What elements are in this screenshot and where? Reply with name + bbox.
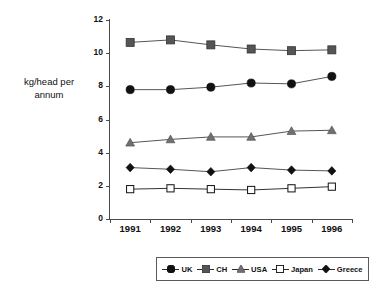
data-point-marker — [127, 186, 134, 193]
series-greece — [126, 163, 336, 176]
legend-swatch-usa — [232, 265, 249, 273]
y-tick-label: 2 — [86, 180, 103, 190]
series-ch — [126, 36, 336, 55]
plot-area: 024681012 — [110, 20, 352, 219]
y-tick-label: 12 — [86, 14, 103, 24]
data-point-marker — [167, 265, 175, 273]
data-point-marker — [207, 83, 215, 91]
data-point-marker — [126, 163, 134, 172]
series-line — [130, 76, 332, 89]
legend-marker-icon — [237, 265, 245, 273]
data-point-marker — [328, 183, 335, 190]
series-line — [130, 40, 332, 51]
x-axis-tick — [352, 219, 353, 223]
legend-label: USA — [251, 265, 267, 274]
series-uk — [126, 72, 336, 93]
legend-swatch-greece — [318, 265, 335, 273]
x-tick-label-1994: 1994 — [231, 223, 271, 234]
y-tick-label: 10 — [86, 47, 103, 57]
series-line — [130, 187, 332, 190]
series-usa — [126, 126, 336, 146]
x-tick-label-1996: 1996 — [312, 223, 352, 234]
x-tick-label-1995: 1995 — [272, 223, 312, 234]
legend-swatch-ch — [197, 265, 214, 273]
data-point-marker — [287, 80, 295, 88]
data-point-marker — [207, 41, 215, 49]
x-tick-label-1993: 1993 — [191, 223, 231, 234]
data-point-marker — [126, 38, 134, 46]
data-point-marker — [247, 163, 255, 172]
data-point-marker — [288, 185, 295, 192]
y-tick-label: 8 — [86, 80, 103, 90]
legend-marker-icon — [276, 265, 284, 273]
y-tick-label: 6 — [86, 114, 103, 124]
series-line — [130, 130, 332, 142]
chart-figure: kg/head per annum 024681012 199119921993… — [0, 0, 392, 298]
legend-item-uk[interactable]: UK — [162, 265, 192, 274]
x-tick-label-1992: 1992 — [151, 223, 191, 234]
series-line — [130, 168, 332, 172]
series-japan — [127, 183, 336, 194]
y-tick-label: 4 — [86, 147, 103, 157]
data-point-marker — [207, 186, 214, 193]
data-point-marker — [167, 36, 175, 44]
data-point-marker — [202, 265, 210, 273]
series-layer — [110, 20, 352, 219]
data-point-marker — [327, 126, 336, 134]
data-point-marker — [247, 45, 255, 53]
data-point-marker — [166, 86, 174, 94]
data-point-marker — [328, 72, 336, 80]
y-axis-title: kg/head per annum — [6, 76, 92, 101]
data-point-marker — [277, 265, 284, 272]
x-tick-label-1991: 1991 — [110, 223, 150, 234]
y-tick-label: 0 — [86, 213, 103, 223]
legend-item-ch[interactable]: CH — [197, 265, 227, 274]
data-point-marker — [288, 47, 296, 55]
legend-marker-icon — [322, 265, 330, 273]
legend-marker-icon — [167, 265, 175, 273]
legend-label: CH — [216, 265, 227, 274]
legend-marker-icon — [202, 265, 210, 273]
legend-label: Greece — [337, 265, 363, 274]
data-point-marker — [322, 265, 330, 273]
data-point-marker — [328, 46, 336, 54]
legend-item-usa[interactable]: USA — [232, 265, 267, 274]
data-point-marker — [247, 79, 255, 87]
legend-label: UK — [181, 265, 192, 274]
chart-legend: UKCHUSAJapanGreece — [156, 257, 369, 281]
data-point-marker — [207, 167, 215, 176]
data-point-marker — [248, 186, 255, 193]
data-point-marker — [328, 167, 336, 176]
data-point-marker — [287, 166, 295, 175]
data-point-marker — [237, 265, 245, 272]
legend-label: Japan — [291, 265, 313, 274]
legend-item-japan[interactable]: Japan — [272, 265, 313, 274]
y-axis-title-line-2: annum — [6, 89, 92, 102]
legend-swatch-japan — [272, 265, 289, 273]
y-axis-title-line-1: kg/head per — [6, 76, 92, 89]
data-point-marker — [166, 165, 174, 174]
data-point-marker — [167, 185, 174, 192]
legend-swatch-uk — [162, 265, 179, 273]
legend-item-greece[interactable]: Greece — [318, 265, 363, 274]
data-point-marker — [126, 86, 134, 94]
